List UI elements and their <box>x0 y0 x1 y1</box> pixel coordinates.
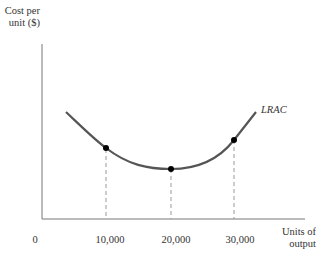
lrac-label: LRAC <box>261 104 287 116</box>
data-points <box>103 137 237 172</box>
y-axis-label-line1: Cost per <box>0 5 40 17</box>
x-tick-10000: 10,000 <box>96 234 125 246</box>
x-axis-label: Units of output <box>276 226 316 250</box>
y-axis-label: Cost per unit ($) <box>0 5 40 29</box>
y-axis-label-line2: unit ($) <box>0 17 40 29</box>
drop-lines <box>106 140 234 219</box>
x-tick-30000: 30,000 <box>226 234 255 246</box>
x-tick-origin: 0 <box>32 234 37 246</box>
x-axis-label-line2: output <box>276 238 316 250</box>
lrac-curve <box>66 112 256 169</box>
x-axis-label-line1: Units of <box>276 226 316 238</box>
x-tick-20000: 20,000 <box>162 234 191 246</box>
chart-canvas <box>0 0 316 262</box>
